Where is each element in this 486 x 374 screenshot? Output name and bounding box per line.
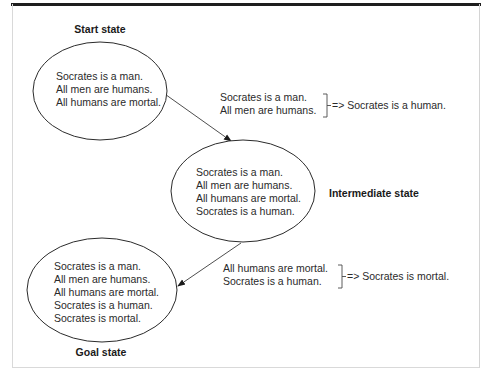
bracket-icon [338, 265, 346, 288]
fact-line: Socrates is mortal. [54, 312, 141, 324]
fact-line: All men are humans. [56, 83, 152, 95]
fact-line: All men are humans. [196, 179, 292, 191]
inference-rule-1: Socrates is a man. All men are humans. =… [220, 91, 446, 117]
premise-line: Socrates is a human. [223, 275, 322, 287]
fact-line: All humans are mortal. [196, 192, 301, 204]
fact-line: All men are humans. [54, 273, 150, 285]
state-node-intermediate: Socrates is a man. All men are humans. A… [171, 140, 419, 242]
bracket-icon [323, 94, 331, 117]
fact-line: Socrates is a human. [54, 299, 153, 311]
fact-line: Socrates is a man. [196, 166, 283, 178]
fact-line: Socrates is a man. [54, 260, 141, 272]
state-label-goal: Goal state [76, 346, 127, 358]
fact-line: Socrates is a man. [56, 70, 143, 82]
fact-line: All humans are mortal. [56, 96, 161, 108]
state-node-goal: Socrates is a man. All men are humans. A… [27, 238, 177, 358]
fact-line: All humans are mortal. [54, 286, 159, 298]
fact-line: Socrates is a human. [196, 205, 295, 217]
state-label-intermediate: Intermediate state [329, 187, 419, 199]
state-label-start: Start state [74, 23, 126, 35]
premise-line: Socrates is a man. [220, 91, 307, 103]
state-node-start: Start state Socrates is a man. All men a… [33, 23, 167, 140]
conclusion-text: => Socrates is a human. [332, 99, 446, 111]
inference-rule-2: All humans are mortal. Socrates is a hum… [223, 262, 449, 288]
state-ellipse-intermediate [171, 140, 315, 242]
premise-line: All men are humans. [220, 104, 316, 116]
state-diagram: Start state Socrates is a man. All men a… [0, 0, 486, 374]
premise-line: All humans are mortal. [223, 262, 328, 274]
conclusion-text: => Socrates is mortal. [347, 270, 449, 282]
